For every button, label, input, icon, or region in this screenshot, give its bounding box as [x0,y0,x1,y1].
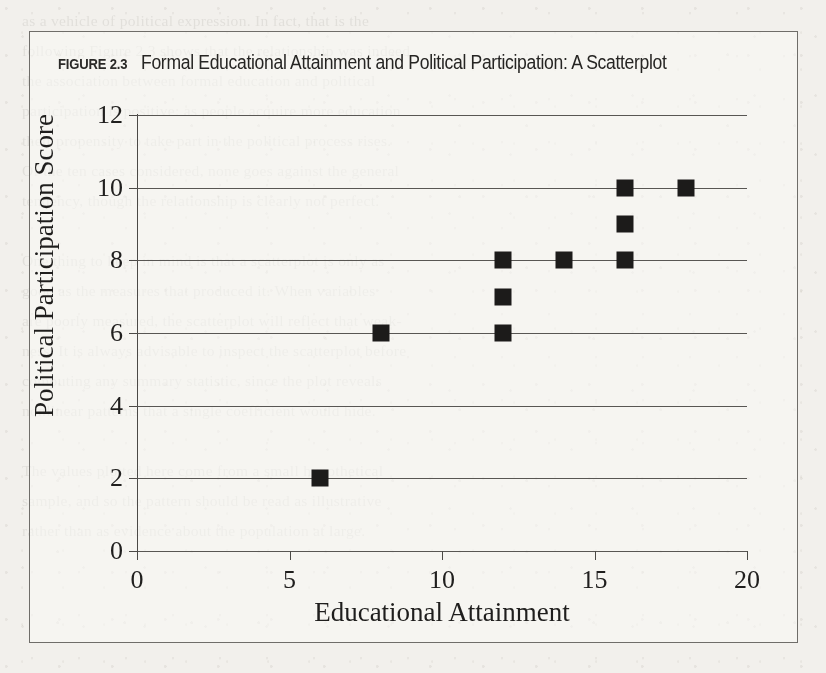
x-tick-5 [290,551,291,560]
x-tick-label-0: 0 [131,565,144,595]
y-tick-0 [129,551,137,552]
y-tick-label-10: 10 [97,173,123,203]
data-point [312,470,329,487]
figure-frame: FIGURE 2.3Formal Educational Attainment … [29,31,798,643]
x-tick-label-5: 5 [283,565,296,595]
y-tick-2 [129,478,137,479]
gridline-y-10 [137,188,747,189]
book-page: as a vehicle of political expression. In… [0,0,826,673]
x-tick-label-20: 20 [734,565,760,595]
data-point [617,216,634,233]
y-tick-4 [129,406,137,407]
x-tick-label-10: 10 [429,565,455,595]
y-tick-label-2: 2 [110,463,123,493]
data-point [495,288,512,305]
data-point [678,179,695,196]
x-tick-10 [442,551,443,560]
y-axis-title: Political Participation Score [29,16,60,516]
x-tick-0 [137,551,138,560]
y-tick-label-0: 0 [110,536,123,566]
x-axis-title: Educational Attainment [137,597,747,628]
y-tick-10 [129,188,137,189]
y-tick-6 [129,333,137,334]
y-tick-label-6: 6 [110,318,123,348]
figure-title: Formal Educational Attainment and Politi… [141,51,667,74]
gridline-y-8 [137,260,747,261]
x-tick-20 [747,551,748,560]
x-tick-label-15: 15 [582,565,608,595]
y-tick-label-8: 8 [110,245,123,275]
y-tick-label-12: 12 [97,100,123,130]
x-tick-15 [595,551,596,560]
gridline-y-4 [137,406,747,407]
y-tick-12 [129,115,137,116]
data-point [617,252,634,269]
gridline-y-2 [137,478,747,479]
gridline-y-12 [137,115,747,116]
figure-number-label: FIGURE 2.3 [58,56,127,72]
y-tick-label-4: 4 [110,391,123,421]
data-point [556,252,573,269]
y-tick-8 [129,260,137,261]
figure-caption: FIGURE 2.3Formal Educational Attainment … [58,51,725,74]
data-point [373,325,390,342]
scatterplot-plot-area: 024681012 05101520 [137,115,747,551]
data-point [495,252,512,269]
gridline-y-6 [137,333,747,334]
data-point [617,179,634,196]
data-point [495,325,512,342]
